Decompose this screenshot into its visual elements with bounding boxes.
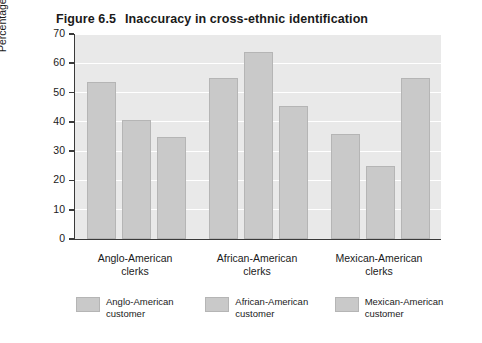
y-tick-label: 20 [39, 173, 65, 185]
figure-number: Figure 6.5 [56, 12, 116, 26]
legend-item: Anglo-Americancustomer [76, 296, 187, 319]
x-axis-tick-label-line: clerks [318, 265, 440, 278]
y-tick-label: 10 [39, 203, 65, 215]
bar [401, 78, 430, 239]
legend-label-line: African-American [235, 296, 308, 308]
plot-area [74, 34, 441, 240]
y-tick-label: 0 [39, 232, 65, 244]
y-tick-label: 50 [39, 86, 65, 98]
y-axis-label: Percentage of correct identification [0, 0, 8, 52]
x-axis-group-label: Anglo-Americanclerks [74, 252, 196, 278]
y-tick-label: 30 [39, 144, 65, 156]
legend-item: African-Americancustomer [205, 296, 316, 319]
x-axis-tick-label-line: Mexican-American [318, 252, 440, 265]
figure-title-text: Inaccuracy in cross-ethnic identificatio… [125, 12, 368, 26]
legend-label-line: customer [365, 308, 444, 320]
bar [87, 82, 116, 239]
x-axis-group-label: Mexican-Americanclerks [318, 252, 440, 278]
y-tick-mark [69, 209, 74, 211]
legend-swatch [335, 297, 359, 312]
legend-item: Mexican-Americancustomer [335, 296, 446, 319]
x-axis-tick-label-line: clerks [196, 265, 318, 278]
legend-label: Mexican-Americancustomer [365, 296, 444, 319]
y-tick-mark [69, 92, 74, 94]
y-tick-mark [69, 121, 74, 123]
legend-swatch [205, 297, 229, 312]
legend-label: Anglo-Americancustomer [106, 296, 174, 319]
x-axis-tick-label-line: Anglo-American [74, 252, 196, 265]
y-tick-mark [69, 62, 74, 64]
bar [209, 78, 238, 239]
chart-legend: Anglo-AmericancustomerAfrican-Americancu… [76, 296, 446, 319]
y-tick-label: 70 [39, 27, 65, 39]
gridline [75, 34, 441, 35]
y-tick-mark [69, 33, 74, 35]
legend-label-line: customer [106, 308, 174, 320]
legend-label-line: customer [235, 308, 308, 320]
bar [157, 137, 186, 240]
y-tick-mark [69, 150, 74, 152]
bar [366, 166, 395, 239]
bar [244, 52, 273, 239]
figure-container: Figure 6.5 Inaccuracy in cross-ethnic id… [0, 0, 482, 343]
y-tick-label: 60 [39, 56, 65, 68]
x-axis-group-label: African-Americanclerks [196, 252, 318, 278]
y-tick-mark [69, 180, 74, 182]
figure-title: Figure 6.5 Inaccuracy in cross-ethnic id… [56, 8, 456, 30]
bar [331, 134, 360, 239]
x-axis-tick-label-line: African-American [196, 252, 318, 265]
x-axis-tick-label-line: clerks [74, 265, 196, 278]
legend-label-line: Mexican-American [365, 296, 444, 308]
legend-label-line: Anglo-American [106, 296, 174, 308]
legend-label: African-Americancustomer [235, 296, 308, 319]
bar [122, 120, 151, 239]
y-tick-label: 40 [39, 115, 65, 127]
y-tick-mark [69, 238, 74, 240]
legend-swatch [76, 297, 100, 312]
bar [279, 106, 308, 239]
